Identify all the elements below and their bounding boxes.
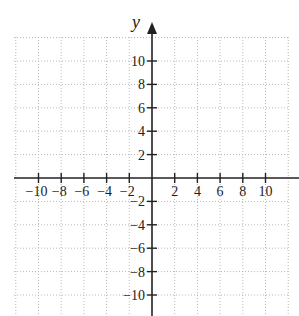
x-tick-label: −6 (74, 184, 89, 199)
y-axis-label: y (130, 12, 140, 32)
axes: y (14, 12, 299, 316)
y-tick-label: −2 (130, 194, 145, 209)
y-tick-label: −10 (123, 288, 145, 303)
y-tick-label: −8 (130, 265, 145, 280)
x-tick-label: 4 (194, 184, 201, 199)
x-tick-label: −8 (52, 184, 67, 199)
x-tick-label: 2 (171, 184, 178, 199)
x-tick-label: −10 (26, 184, 48, 199)
x-tick-label: 8 (239, 184, 246, 199)
x-tick-label: −4 (97, 184, 112, 199)
y-tick-label: 8 (138, 77, 145, 92)
y-tick-label: 10 (131, 54, 145, 69)
coordinate-plane: y −10−8−6−4−2246810108642−2−4−6−8−10 (0, 0, 299, 316)
x-tick-label: 6 (217, 184, 224, 199)
y-axis-arrow-icon (147, 22, 157, 34)
y-tick-label: 6 (138, 101, 145, 116)
y-tick-label: 2 (138, 148, 145, 163)
y-tick-label: 4 (138, 124, 145, 139)
x-tick-label: 10 (259, 184, 273, 199)
y-tick-label: −6 (130, 241, 145, 256)
y-tick-label: −4 (130, 218, 145, 233)
